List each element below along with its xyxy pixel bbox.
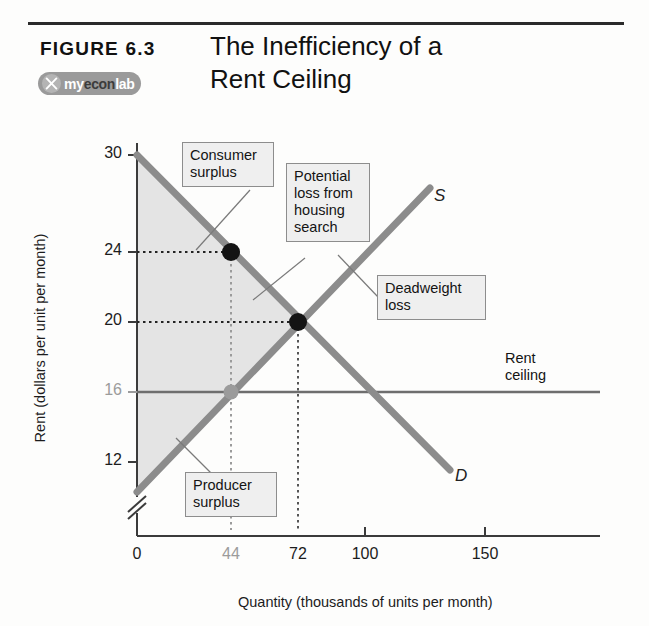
x-tick-label-44: 44 [214, 545, 248, 563]
consumer-surplus-callout: Consumer surplus [182, 142, 274, 187]
producer-surplus-callout: Producer surplus [185, 472, 277, 517]
x-tick-label-0: 0 [124, 545, 150, 563]
y-tick-label-12: 12 [86, 451, 122, 469]
potential-loss-callout: Potential loss from housing search [286, 163, 370, 242]
x-tick-label-72: 72 [281, 545, 315, 563]
willingness-to-pay-point [222, 243, 240, 261]
chart-plot-area: Rent (dollars per unit per month) Quanti… [0, 0, 649, 626]
surplus-region-mid [137, 322, 298, 392]
axis-break-mark [128, 496, 146, 512]
leader-producer-surplus [176, 438, 212, 474]
y-tick-label-16: 16 [86, 381, 122, 399]
y-tick-label-24: 24 [86, 241, 122, 259]
x-axis-title: Quantity (thousands of units per month) [238, 594, 493, 610]
demand-curve-label: D [455, 466, 467, 486]
deadweight-loss-callout: Deadweight loss [377, 275, 486, 320]
x-tick-label-150: 150 [463, 545, 507, 563]
y-tick-label-30: 30 [86, 144, 122, 162]
y-axis-title: Rent (dollars per unit per month) [32, 234, 48, 443]
rent-ceiling-quantity-point [224, 385, 239, 400]
rent-ceiling-label: Rent ceiling [505, 350, 546, 385]
y-tick-label-20: 20 [86, 311, 122, 329]
figure-root: FIGURE 6.3 myeconlab The Inefficiency of… [0, 0, 649, 626]
supply-curve-label: S [434, 186, 445, 206]
equilibrium-point [289, 313, 307, 331]
x-tick-label-100: 100 [343, 545, 387, 563]
